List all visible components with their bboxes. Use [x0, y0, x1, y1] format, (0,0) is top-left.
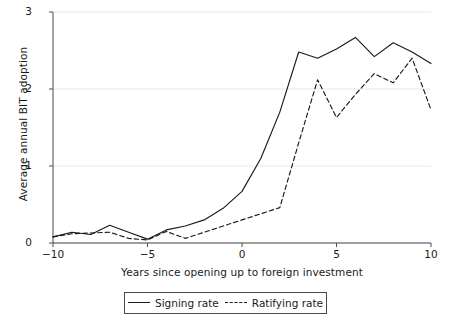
x-tick-label: −5 — [128, 248, 168, 260]
x-tick-label: −10 — [33, 248, 73, 260]
y-tick-label: 0 — [8, 236, 32, 248]
plot-area — [0, 0, 451, 325]
y-tick-label: 2 — [8, 82, 32, 94]
legend-item-ratifying-rate: Ratifying rate — [225, 297, 323, 309]
chart-legend: Signing rate Ratifying rate — [124, 292, 327, 314]
series-line-ratifying-rate — [53, 58, 431, 240]
series-line-signing-rate — [53, 37, 431, 239]
x-tick-label: 10 — [411, 248, 451, 260]
legend-label-ratifying-rate: Ratifying rate — [252, 297, 323, 309]
legend-item-signing-rate: Signing rate — [128, 297, 219, 309]
y-tick-label: 1 — [8, 159, 32, 171]
legend-swatch-solid-icon — [128, 302, 150, 304]
legend-label-signing-rate: Signing rate — [155, 297, 219, 309]
chart-figure: Average annual BIT adoption Years since … — [0, 0, 451, 325]
x-tick-label: 0 — [222, 248, 262, 260]
x-tick-label: 5 — [317, 248, 357, 260]
legend-swatch-dashed-icon — [225, 302, 247, 304]
y-tick-label: 3 — [8, 5, 32, 17]
